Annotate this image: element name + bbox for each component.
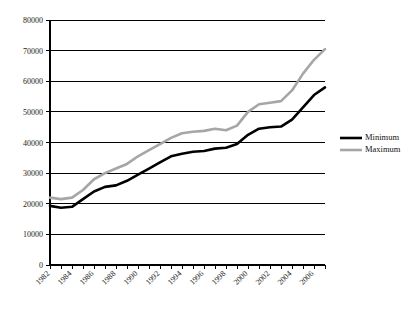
x-tick-label: 1982 [34,269,52,287]
x-tick-label: 2000 [232,269,250,287]
x-tick-label: 1996 [188,269,206,287]
x-tick-label: 2002 [254,269,272,287]
y-tick-label: 60000 [23,77,43,86]
x-tick-label: 1990 [122,269,140,287]
y-tick-label: 40000 [23,139,43,148]
x-tick-label: 1984 [56,269,74,287]
x-tick-label: 1998 [210,269,228,287]
y-tick-label: 10000 [23,230,43,239]
x-tick-label: 2006 [298,269,316,287]
line-chart: 0100002000030000400005000060000700008000… [0,0,420,310]
chart-container: 0100002000030000400005000060000700008000… [0,0,420,310]
x-tick-label: 1992 [144,269,162,287]
legend-label-maximum: Maximum [365,144,401,154]
x-tick-label: 1988 [100,269,118,287]
legend: MinimumMaximum [340,132,401,154]
y-tick-label: 50000 [23,108,43,117]
x-tick-label: 2004 [276,269,294,287]
y-tick-labels: 0100002000030000400005000060000700008000… [23,16,43,270]
x-tick-labels: 1982198419861988199019921994199619982000… [34,269,316,287]
gridlines [50,20,325,265]
y-tick-label: 80000 [23,16,43,25]
series-line-minimum [50,87,325,207]
y-tick-label: 0 [39,261,43,270]
x-tick-label: 1994 [166,269,184,287]
y-tick-label: 30000 [23,169,43,178]
y-tick-label: 70000 [23,47,43,56]
x-tick-label: 1986 [78,269,96,287]
legend-label-minimum: Minimum [365,132,399,142]
y-axis [46,20,50,265]
x-axis [50,265,325,269]
data-series [50,49,325,208]
y-tick-label: 20000 [23,200,43,209]
